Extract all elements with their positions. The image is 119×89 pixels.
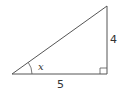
- vertical-side-label: 4: [110, 33, 117, 46]
- triangle-diagram: x 4 5: [0, 0, 119, 89]
- right-triangle: [12, 6, 107, 74]
- horizontal-side-label: 5: [57, 78, 64, 89]
- angle-arc: [28, 62, 32, 74]
- angle-label: x: [38, 61, 44, 72]
- right-angle-marker: [100, 68, 107, 74]
